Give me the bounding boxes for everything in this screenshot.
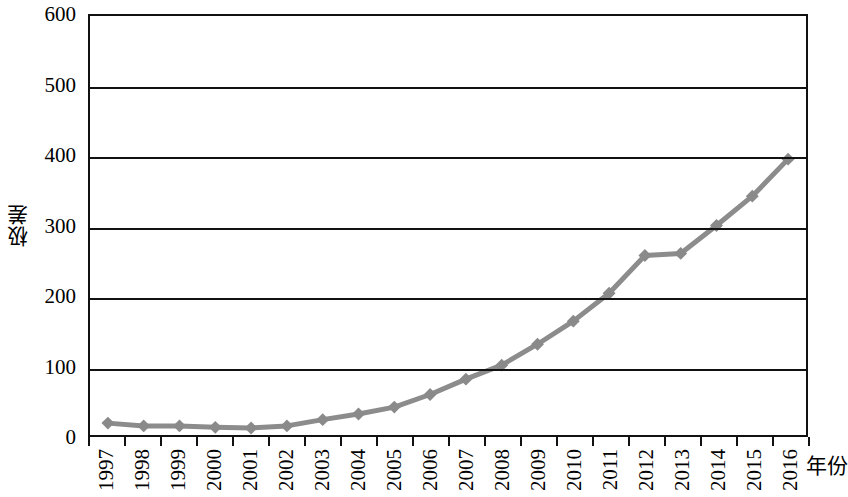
- y-axis-tick-labels: 0100200300400500600: [30, 0, 82, 450]
- x-axis-tick-label: 2001: [237, 449, 263, 491]
- y-axis-tick-label: 300: [45, 215, 77, 236]
- data-point-marker: [352, 408, 365, 421]
- x-axis-tick: [268, 437, 270, 446]
- x-axis-tick-label-text: 2016: [780, 449, 801, 491]
- x-axis-tick-label-text: 1999: [168, 449, 189, 491]
- y-axis-tick-label: 0: [66, 427, 77, 448]
- data-point-marker: [245, 422, 258, 435]
- x-axis-tick: [556, 437, 558, 446]
- data-point-marker: [316, 413, 329, 426]
- y-axis-tick-label: 400: [45, 145, 77, 166]
- x-axis-tick: [736, 437, 738, 446]
- data-point-marker: [280, 419, 293, 432]
- x-axis-tick-label-text: 1997: [96, 449, 117, 491]
- data-point-marker: [101, 417, 114, 430]
- x-axis-tick-label-text: 2007: [456, 449, 477, 491]
- x-axis-tick-label-text: 2013: [672, 449, 693, 491]
- x-axis-tick-label-text: 2005: [384, 449, 405, 491]
- x-axis-tick: [592, 437, 594, 446]
- x-axis-tick: [124, 437, 126, 446]
- x-axis-tick-label: 2009: [525, 449, 551, 491]
- x-axis-tick: [772, 437, 774, 446]
- plot-area: [88, 14, 808, 437]
- x-axis-tick-label: 1999: [165, 449, 191, 491]
- data-series-line: [90, 16, 806, 435]
- series-line: [108, 159, 788, 428]
- x-axis-tick-label-text: 2015: [744, 449, 765, 491]
- data-point-marker: [137, 419, 150, 432]
- x-axis-tick: [664, 437, 666, 446]
- gridline: [90, 228, 806, 230]
- x-axis-tick-label-text: 2004: [348, 449, 369, 491]
- gridline: [90, 369, 806, 371]
- x-axis-tick: [412, 437, 414, 446]
- x-axis-tick-label: 2011: [597, 449, 623, 490]
- gridline: [90, 298, 806, 300]
- x-axis-tick-label: 2000: [201, 449, 227, 491]
- x-axis-tick-label: 2014: [705, 449, 731, 491]
- x-axis-tick-label-text: 2011: [600, 449, 621, 490]
- x-axis-tick-labels: 1997199819992000200120022003200420052006…: [88, 449, 808, 497]
- y-axis-title-text: 极差: [9, 203, 30, 247]
- x-axis-tick-label-text: 2001: [240, 449, 261, 491]
- x-axis-tick-label: 2013: [669, 449, 695, 491]
- x-axis-tick: [88, 437, 90, 446]
- gridline: [90, 87, 806, 89]
- x-axis-tick-label: 2006: [417, 449, 443, 491]
- x-axis-tick: [808, 437, 810, 446]
- x-axis-tick-label: 2003: [309, 449, 335, 491]
- data-point-marker: [209, 421, 222, 434]
- x-axis-tick-label: 2007: [453, 449, 479, 491]
- x-axis-tick-label: 2002: [273, 449, 299, 491]
- x-axis-tick: [700, 437, 702, 446]
- y-axis-tick-label: 500: [45, 74, 77, 95]
- x-axis-tick-label: 2008: [489, 449, 515, 491]
- x-axis-tick-label-text: 2003: [312, 449, 333, 491]
- y-axis-tick-label: 100: [45, 356, 77, 377]
- x-axis-tick-label-text: 2002: [276, 449, 297, 491]
- x-axis-tick-label-text: 2008: [492, 449, 513, 491]
- x-axis-tick-label: 1998: [129, 449, 155, 491]
- x-axis-tick-label: 2010: [561, 449, 587, 491]
- x-axis-tick-label-text: 2010: [564, 449, 585, 491]
- x-axis-tick-label: 2004: [345, 449, 371, 491]
- y-axis-tick-label: 200: [45, 286, 77, 307]
- x-axis-tick: [232, 437, 234, 446]
- x-axis-tick: [340, 437, 342, 446]
- x-axis-tick-label-text: 2006: [420, 449, 441, 491]
- x-axis-tick: [196, 437, 198, 446]
- data-point-marker: [173, 419, 186, 432]
- x-axis-tick: [484, 437, 486, 446]
- x-axis-tick-label: 2012: [633, 449, 659, 491]
- x-axis-tick-label-text: 1998: [132, 449, 153, 491]
- x-axis-tick-label-text: 2012: [636, 449, 657, 491]
- y-axis-tick-label: 600: [45, 4, 77, 25]
- x-axis-tick: [448, 437, 450, 446]
- data-point-marker: [388, 401, 401, 414]
- x-axis-tick: [520, 437, 522, 446]
- x-axis-tick-label: 2016: [777, 449, 803, 491]
- x-axis-ticks: [88, 437, 808, 447]
- x-axis-tick: [160, 437, 162, 446]
- x-axis-tick-label: 1997: [93, 449, 119, 491]
- x-axis-tick-label-text: 2009: [528, 449, 549, 491]
- x-axis-tick: [376, 437, 378, 446]
- x-axis-tick: [304, 437, 306, 446]
- x-axis-tick-label-text: 2014: [708, 449, 729, 491]
- gridline: [90, 157, 806, 159]
- x-axis-tick-label: 2005: [381, 449, 407, 491]
- x-axis-tick-label: 2015: [741, 449, 767, 491]
- x-axis-title: 年份: [806, 456, 848, 477]
- x-axis-tick: [628, 437, 630, 446]
- x-axis-tick-label-text: 2000: [204, 449, 225, 491]
